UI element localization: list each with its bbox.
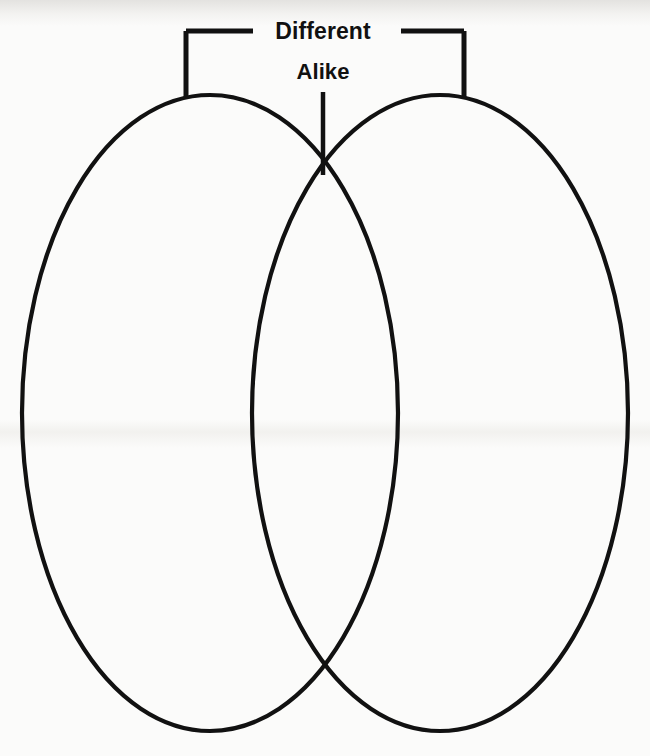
venn-left-ellipse[interactable] — [22, 95, 398, 731]
worksheet-page: Different Alike — [0, 0, 650, 756]
different-label-text: Different — [275, 18, 370, 45]
different-label: Different — [0, 18, 650, 45]
venn-right-ellipse[interactable] — [252, 95, 628, 731]
alike-label-text: Alike — [296, 59, 349, 85]
alike-label: Alike — [0, 59, 650, 85]
venn-diagram — [0, 0, 650, 756]
